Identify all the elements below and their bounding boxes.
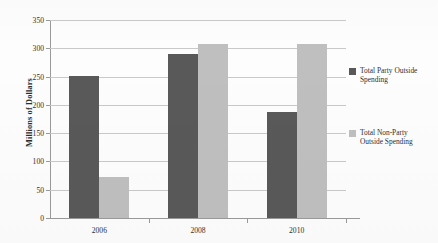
legend-label: Total Party Outside Spending (360, 66, 432, 84)
legend-entry[interactable]: Total Non-Party Outside Spending (349, 128, 432, 146)
x-axis-extension (346, 218, 360, 219)
y-axis-tick-mark (46, 190, 50, 191)
plot-area: 050100150200250300350 200620082010 (50, 20, 346, 218)
bar (267, 112, 297, 218)
x-axis-tick-label: 2010 (289, 226, 304, 235)
y-axis-tick-label: 200 (33, 100, 44, 109)
y-axis-tick-mark (46, 77, 50, 78)
x-axis-tick-label: 2008 (190, 226, 205, 235)
x-axis-tick-label: 2006 (92, 226, 107, 235)
bar (198, 44, 228, 218)
y-axis-tick-mark (46, 105, 50, 106)
y-axis-tick-label: 100 (33, 157, 44, 166)
y-axis-tick-label: 150 (33, 129, 44, 138)
x-axis-tick-mark (149, 219, 150, 223)
bar (168, 54, 198, 218)
y-axis-tick-mark (46, 133, 50, 134)
gridline (50, 20, 346, 21)
bar (99, 177, 129, 218)
y-axis-tick-label: 50 (36, 185, 44, 194)
y-axis-tick-mark (46, 218, 50, 219)
y-axis-tick-mark (46, 161, 50, 162)
legend-swatch-icon (349, 68, 356, 75)
y-axis-tick-mark (46, 48, 50, 49)
x-axis-tick-mark (346, 219, 347, 223)
bar (69, 76, 99, 218)
y-axis-tick-label: 250 (33, 72, 44, 81)
bar-chart: Millions of Dollars 05010015020025030035… (0, 0, 438, 243)
gridline (50, 218, 346, 219)
bar (297, 44, 327, 218)
legend-swatch-icon (349, 130, 356, 137)
y-axis-tick-mark (46, 20, 50, 21)
y-axis-tick-label: 300 (33, 44, 44, 53)
y-axis-tick-label: 0 (40, 214, 44, 223)
legend-entry[interactable]: Total Party Outside Spending (349, 66, 432, 84)
x-axis-tick-mark (247, 219, 248, 223)
legend-label: Total Non-Party Outside Spending (360, 128, 432, 146)
y-axis-title: Millions of Dollars (25, 33, 34, 193)
y-axis-tick-label: 350 (33, 16, 44, 25)
